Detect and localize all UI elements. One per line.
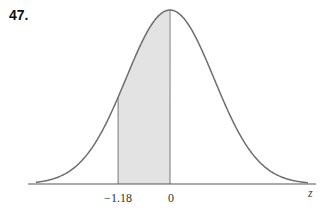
normal-curve-figure xyxy=(0,0,329,210)
bell-curve xyxy=(36,10,308,183)
tick-label-zero: 0 xyxy=(168,191,174,206)
tick-label-neg-1-18: −1.18 xyxy=(104,191,132,206)
shaded-area xyxy=(118,10,170,184)
axis-variable-z: z xyxy=(308,186,313,201)
